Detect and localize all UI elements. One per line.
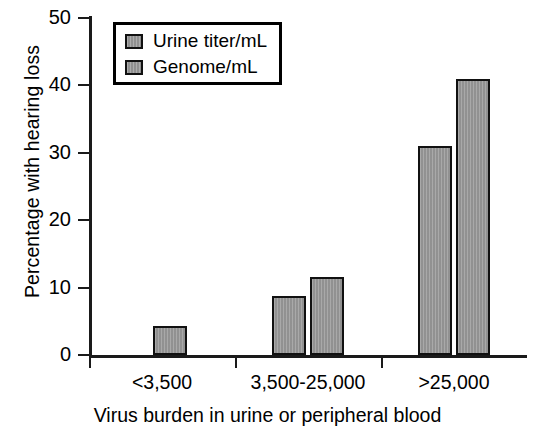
y-axis-tick-label: 40 <box>27 74 71 94</box>
y-axis-tick-mark <box>78 152 89 154</box>
y-axis-tick-label: 20 <box>27 209 71 229</box>
y-axis-tick-label: 30 <box>27 142 71 162</box>
y-axis-tick-mark <box>78 219 89 221</box>
legend-swatch-icon <box>125 60 143 75</box>
x-axis-tick-mark <box>381 356 383 368</box>
x-axis-title: Virus burden in urine or peripheral bloo… <box>0 404 535 427</box>
y-axis-tick-label: 0 <box>27 344 71 364</box>
y-axis-tick-mark <box>78 287 89 289</box>
x-axis-tick-mark <box>235 356 237 368</box>
legend-item-urine-titer: Urine titer/mL <box>125 28 267 54</box>
y-axis-tick-label: 50 <box>27 7 71 27</box>
bar <box>418 146 452 355</box>
legend-swatch-icon <box>125 34 143 49</box>
x-axis-tick-mark <box>89 356 91 368</box>
legend: Urine titer/mL Genome/mL <box>113 22 282 85</box>
legend-item-label: Genome/mL <box>153 57 258 77</box>
x-axis-category-label: >25,000 <box>354 371 535 393</box>
bar <box>272 296 306 355</box>
y-axis-tick-label: 10 <box>27 277 71 297</box>
legend-item-genome: Genome/mL <box>125 54 258 80</box>
y-axis-tick-mark <box>78 84 89 86</box>
y-axis-tick-mark <box>78 17 89 19</box>
y-axis-line <box>89 16 92 357</box>
y-axis-tick-mark <box>78 354 89 356</box>
bar <box>310 277 344 355</box>
x-axis-line <box>89 355 527 358</box>
bar-chart-figure: Percentage with hearing loss 50403020100… <box>0 0 535 434</box>
legend-item-label: Urine titer/mL <box>153 31 267 51</box>
bar <box>456 79 490 355</box>
bar <box>153 326 187 355</box>
